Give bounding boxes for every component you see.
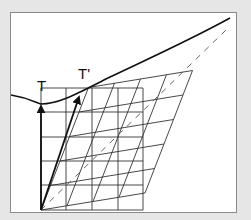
- dashed-diagonal: [41, 30, 226, 210]
- vector-t-prime: [41, 97, 79, 210]
- square-grid: [41, 88, 143, 210]
- label-t: T: [37, 77, 46, 94]
- label-t-prime: T': [78, 65, 90, 82]
- shear-diagram: [0, 0, 251, 220]
